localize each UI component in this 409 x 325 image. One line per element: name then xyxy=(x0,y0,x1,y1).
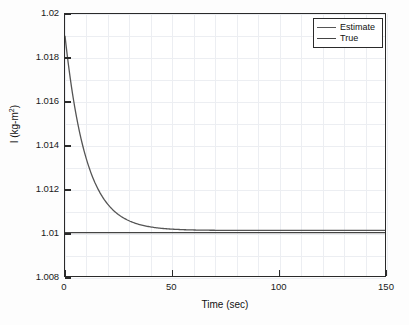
legend: Estimate True xyxy=(313,18,383,48)
x-tick-mark xyxy=(386,270,387,276)
x-tick-label: 150 xyxy=(366,281,406,292)
legend-swatch-true xyxy=(317,38,336,39)
y-axis-title-tail: ) xyxy=(9,105,20,108)
x-tick-label: 50 xyxy=(151,281,191,292)
legend-swatch-estimate xyxy=(317,27,336,28)
y-tick-mark xyxy=(65,189,71,190)
legend-label-true: True xyxy=(340,33,358,44)
y-axis-title-main: I (kg-m xyxy=(9,112,20,143)
x-tick-mark xyxy=(65,270,66,276)
y-tick-mark xyxy=(65,277,71,278)
line-estimate xyxy=(65,36,385,231)
x-axis-title: Time (sec) xyxy=(64,299,386,310)
x-tick-mark xyxy=(279,270,280,276)
y-tick-label: 1.012 xyxy=(36,183,59,194)
y-tick-mark xyxy=(65,101,71,102)
legend-item-estimate: Estimate xyxy=(317,22,378,33)
y-tick-mark xyxy=(65,145,71,146)
legend-label-estimate: Estimate xyxy=(340,22,375,33)
legend-item-true: True xyxy=(317,33,378,44)
figure-canvas: Estimate True 1.0081.011.0121.0141.0161.… xyxy=(0,0,409,325)
series-lines xyxy=(65,14,385,276)
y-tick-mark xyxy=(65,57,71,58)
y-tick-label: 1.01 xyxy=(41,227,59,238)
y-tick-mark xyxy=(65,13,71,14)
y-axis-title-exponent: 2 xyxy=(8,108,15,112)
y-axis-title: I (kg-m2) xyxy=(8,74,20,174)
y-tick-label: 1.02 xyxy=(41,7,59,18)
y-tick-label: 1.014 xyxy=(36,139,59,150)
x-tick-label: 0 xyxy=(44,281,84,292)
y-tick-label: 1.016 xyxy=(36,95,59,106)
y-tick-mark xyxy=(65,233,71,234)
plot-area: Estimate True xyxy=(64,13,386,277)
x-tick-label: 100 xyxy=(259,281,299,292)
x-tick-mark xyxy=(172,270,173,276)
y-tick-label: 1.018 xyxy=(36,51,59,62)
